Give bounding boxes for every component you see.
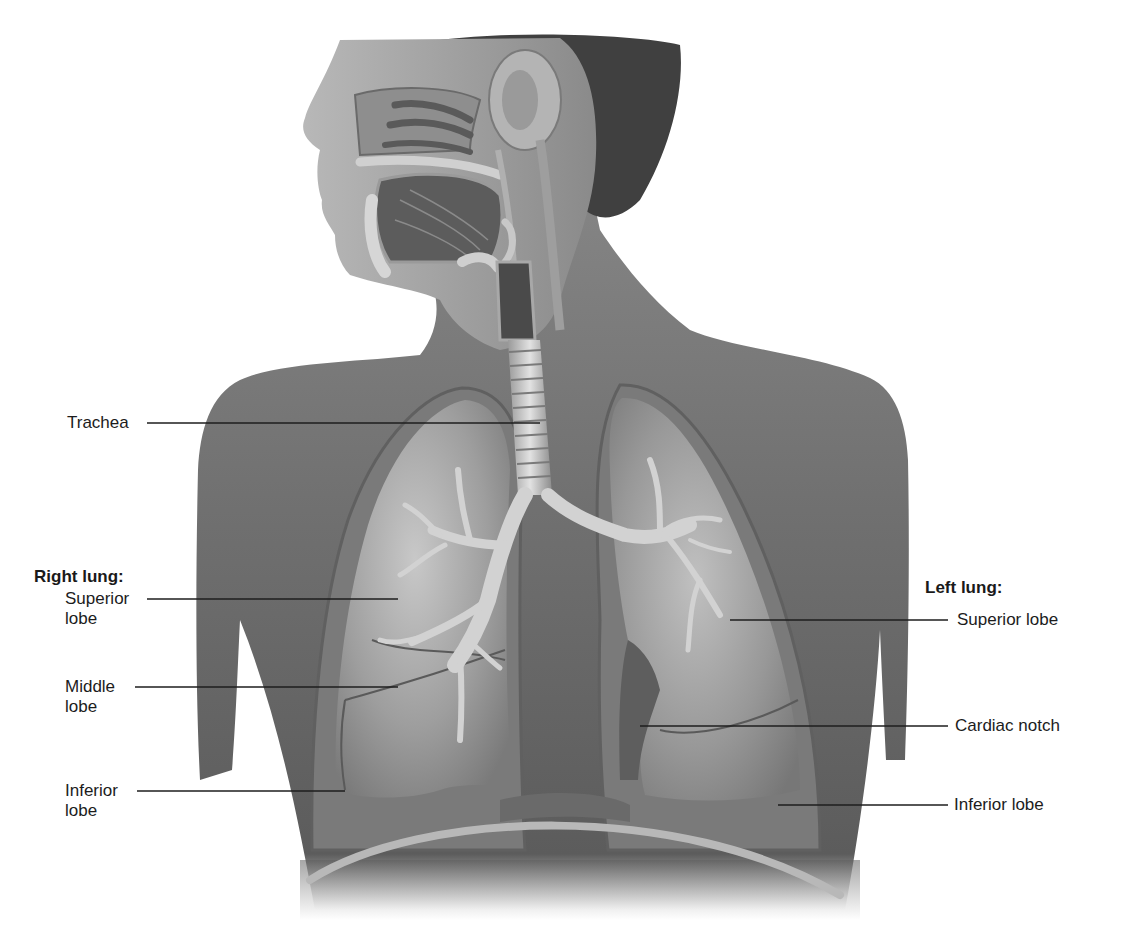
label-right-superior-lobe: Superior lobe <box>65 589 145 629</box>
label-right-superior-line1: Superior <box>65 589 145 609</box>
label-right-lung-heading: Right lung: <box>34 567 124 587</box>
torso-fade <box>300 860 860 920</box>
label-trachea: Trachea <box>67 413 129 433</box>
label-left-lung-heading: Left lung: <box>925 578 1002 598</box>
oral-cavity <box>376 174 502 262</box>
larynx <box>497 262 535 340</box>
label-right-superior-line2: lobe <box>65 609 145 629</box>
label-right-middle-lobe: Middle lobe <box>65 677 145 717</box>
label-cardiac-notch: Cardiac notch <box>955 716 1060 736</box>
label-right-inferior-line1: Inferior <box>65 781 145 801</box>
label-left-inferior-lobe: Inferior lobe <box>954 795 1044 815</box>
ear-inner <box>502 70 538 130</box>
label-right-inferior-lobe: Inferior lobe <box>65 781 145 821</box>
label-right-inferior-line2: lobe <box>65 801 145 821</box>
label-right-middle-line1: Middle <box>65 677 145 697</box>
label-right-middle-line2: lobe <box>65 697 145 717</box>
label-left-superior-lobe: Superior lobe <box>957 610 1058 630</box>
